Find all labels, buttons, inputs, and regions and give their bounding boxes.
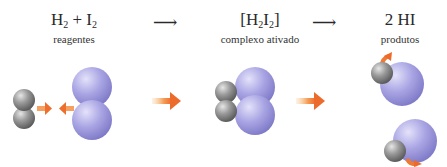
progress-arrow-1-icon (152, 92, 181, 110)
activated-complex (215, 67, 275, 135)
hi-molecule-2 (384, 119, 437, 167)
progress-arrow-2-icon (296, 92, 325, 110)
hydrogen-molecule (13, 89, 35, 129)
molecule-illustration (0, 0, 447, 167)
approach-arrow-left-icon (59, 102, 74, 115)
iodine-molecule (72, 67, 112, 140)
hi-molecule-1 (371, 52, 424, 106)
approach-arrow-right-icon (37, 102, 52, 115)
